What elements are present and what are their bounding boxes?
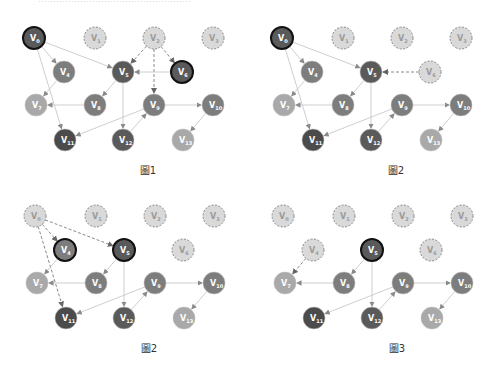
node-v7: V7 bbox=[25, 94, 47, 116]
panel-3: V0V1V2V3V4V5V6V7V8V9V10V11V12V13圖2 bbox=[1, 178, 246, 366]
node-v13: V13 bbox=[172, 129, 194, 151]
edge-v12-to-v9 bbox=[378, 114, 394, 132]
node-v4: V4 bbox=[302, 239, 324, 261]
edge-v9-to-v11 bbox=[76, 109, 144, 136]
node-v3: V3 bbox=[451, 205, 473, 227]
node-v11: V11 bbox=[303, 307, 325, 329]
figure-caption: 圖2 bbox=[376, 162, 416, 177]
node-v3: V3 bbox=[202, 27, 224, 49]
node-v9: V9 bbox=[144, 272, 166, 294]
node-v7: V7 bbox=[274, 272, 296, 294]
node-v3: V3 bbox=[203, 205, 225, 227]
edge-v0-to-v11 bbox=[38, 227, 62, 307]
edge-v12-to-v9 bbox=[379, 292, 395, 310]
node-v0: V0 bbox=[24, 205, 46, 227]
edge-v0-to-v4 bbox=[289, 46, 304, 63]
node-v1: V1 bbox=[333, 205, 355, 227]
edge-v0-to-v4 bbox=[41, 46, 56, 63]
edge-v10-to-v13 bbox=[439, 113, 454, 131]
node-v4: V4 bbox=[54, 239, 76, 261]
node-v10: V10 bbox=[451, 272, 473, 294]
edge-v10-to-v13 bbox=[191, 113, 206, 131]
node-v10: V10 bbox=[203, 272, 225, 294]
edge-v4-to-v7 bbox=[44, 80, 57, 95]
node-v5: V5 bbox=[113, 239, 135, 261]
node-v9: V9 bbox=[391, 94, 413, 116]
node-v7: V7 bbox=[273, 94, 295, 116]
figure-caption: 圖2 bbox=[129, 340, 169, 355]
node-v10: V10 bbox=[450, 94, 472, 116]
panel-2: V0V1V2V3V4V5V6V7V8V9V10V11V12V13圖2 bbox=[248, 0, 491, 188]
node-v8: V8 bbox=[84, 94, 106, 116]
panel-4: V0V1V2V3V4V5V6V7V8V9V10V11V12V13圖3 bbox=[249, 178, 491, 366]
node-v2: V2 bbox=[391, 27, 413, 49]
node-v0: V0 bbox=[23, 27, 45, 49]
node-v2: V2 bbox=[143, 27, 165, 49]
edge-v12-to-v9 bbox=[130, 114, 146, 132]
node-v1: V1 bbox=[332, 27, 354, 49]
edge-v5-to-v8 bbox=[351, 80, 364, 95]
node-v12: V12 bbox=[113, 307, 135, 329]
node-v6: V6 bbox=[172, 239, 194, 261]
edge-v0-to-v4 bbox=[42, 224, 57, 241]
edge-v0-to-v11 bbox=[37, 49, 61, 129]
node-v3: V3 bbox=[450, 27, 472, 49]
edge-v5-to-v8 bbox=[103, 80, 116, 95]
node-v5: V5 bbox=[112, 61, 134, 83]
node-v1: V1 bbox=[84, 27, 106, 49]
node-v2: V2 bbox=[144, 205, 166, 227]
node-v4: V4 bbox=[53, 61, 75, 83]
node-v4: V4 bbox=[301, 61, 323, 83]
node-v8: V8 bbox=[333, 272, 355, 294]
edge-v5-to-v8 bbox=[104, 258, 117, 273]
panel-1: V0V1V2V3V4V5V6V7V8V9V10V11V12V13圖1 bbox=[0, 0, 245, 188]
node-v8: V8 bbox=[85, 272, 107, 294]
node-v0: V0 bbox=[271, 27, 293, 49]
node-v11: V11 bbox=[54, 129, 76, 151]
node-v9: V9 bbox=[392, 272, 414, 294]
node-v11: V11 bbox=[55, 307, 77, 329]
edge-v5-to-v8 bbox=[352, 258, 365, 273]
edge-v9-to-v11 bbox=[77, 287, 145, 314]
node-v5: V5 bbox=[360, 61, 382, 83]
edge-v2-to-v5 bbox=[131, 46, 147, 63]
node-v0: V0 bbox=[272, 205, 294, 227]
edge-v10-to-v13 bbox=[192, 291, 207, 309]
node-v12: V12 bbox=[361, 307, 383, 329]
node-v13: V13 bbox=[420, 129, 442, 151]
edge-v4-to-v7 bbox=[293, 258, 306, 273]
edge-v9-to-v11 bbox=[325, 287, 393, 314]
node-v6: V6 bbox=[171, 61, 193, 83]
edge-v9-to-v11 bbox=[324, 109, 392, 136]
node-v12: V12 bbox=[360, 129, 382, 151]
node-v2: V2 bbox=[392, 205, 414, 227]
node-v5: V5 bbox=[361, 239, 383, 261]
node-v12: V12 bbox=[112, 129, 134, 151]
figure-caption: 圖1 bbox=[128, 162, 168, 177]
node-v11: V11 bbox=[302, 129, 324, 151]
node-v13: V13 bbox=[173, 307, 195, 329]
node-v13: V13 bbox=[421, 307, 443, 329]
node-v8: V8 bbox=[332, 94, 354, 116]
edge-v4-to-v7 bbox=[292, 80, 305, 95]
node-v7: V7 bbox=[26, 272, 48, 294]
edge-v12-to-v9 bbox=[131, 292, 147, 310]
node-v6: V6 bbox=[419, 61, 441, 83]
node-v6: V6 bbox=[420, 239, 442, 261]
node-v1: V1 bbox=[85, 205, 107, 227]
node-v9: V9 bbox=[143, 94, 165, 116]
node-v10: V10 bbox=[202, 94, 224, 116]
edge-v4-to-v7 bbox=[45, 258, 58, 273]
edge-v2-to-v6 bbox=[161, 46, 174, 62]
edge-v0-to-v11 bbox=[285, 49, 309, 129]
edge-v10-to-v13 bbox=[440, 291, 455, 309]
figure-caption: 圖3 bbox=[377, 340, 417, 355]
